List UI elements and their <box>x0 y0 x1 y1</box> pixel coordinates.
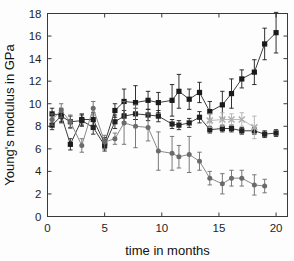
data-point-marker <box>176 154 181 159</box>
data-point-marker <box>187 152 192 157</box>
data-point-marker <box>262 132 267 137</box>
y-tick-label: 6 <box>35 143 41 155</box>
y-tick-label: 10 <box>29 98 42 110</box>
data-point-marker <box>156 114 161 119</box>
y-axis-title: Young's modulus in GPa <box>2 43 17 185</box>
y-tick-label: 18 <box>29 8 42 20</box>
chart-canvas: 024681012141618 05101520 time in months … <box>0 0 294 261</box>
y-tick-label: 4 <box>35 165 42 177</box>
data-point-marker <box>176 123 181 128</box>
data-point-marker <box>68 142 73 147</box>
data-point-marker <box>229 91 234 96</box>
figure-container: 024681012141618 05101520 time in months … <box>0 0 294 261</box>
data-point-marker <box>273 130 278 135</box>
data-point-marker <box>220 181 225 186</box>
data-point-marker <box>252 70 257 75</box>
data-point-marker <box>59 108 64 113</box>
data-point-marker <box>197 90 202 95</box>
y-tick-label: 0 <box>35 211 41 223</box>
data-point-marker <box>239 76 244 81</box>
data-point-marker <box>122 120 127 125</box>
data-point-marker <box>170 151 175 156</box>
data-point-marker <box>156 149 161 154</box>
data-point-marker <box>145 98 150 103</box>
data-point-marker <box>197 159 202 164</box>
data-point-marker <box>262 184 267 189</box>
x-tick-label: 10 <box>155 222 168 234</box>
data-point-marker <box>197 115 202 120</box>
y-tick-label: 2 <box>35 188 41 200</box>
x-tick-label: 20 <box>270 222 283 234</box>
data-point-marker <box>207 176 212 181</box>
data-point-marker <box>239 176 244 181</box>
data-point-marker <box>220 102 225 107</box>
x-tick-label: 0 <box>44 222 50 234</box>
data-point-marker <box>50 117 55 122</box>
data-point-marker <box>112 119 117 124</box>
series-light-gray-crosses <box>207 113 258 139</box>
data-point-marker <box>156 100 161 105</box>
y-tick-label: 8 <box>35 120 41 132</box>
data-point-marker <box>176 89 181 94</box>
data-point-marker <box>239 128 244 133</box>
data-point-marker <box>91 125 96 130</box>
data-point-marker <box>273 30 278 35</box>
x-axis-title: time in months <box>125 243 210 258</box>
error-bars <box>208 113 257 139</box>
y-tick-label: 16 <box>29 30 42 42</box>
data-point-marker <box>187 120 192 125</box>
data-point-marker <box>133 124 138 129</box>
data-point-marker <box>79 118 84 123</box>
x-tick-label: 5 <box>101 222 107 234</box>
data-point-marker <box>187 97 192 102</box>
data-point-marker <box>79 143 84 148</box>
y-tick-label: 12 <box>29 75 42 87</box>
data-point-marker <box>229 176 234 181</box>
data-point-marker <box>146 125 151 130</box>
data-point-marker <box>112 108 117 113</box>
data-point-marker <box>102 140 107 145</box>
data-point-marker <box>112 136 117 141</box>
y-tick-label: 14 <box>29 53 42 65</box>
data-series-layer <box>49 12 278 195</box>
data-point-marker <box>169 121 174 126</box>
data-point-marker <box>91 106 96 111</box>
data-point-marker <box>262 41 267 46</box>
data-point-marker <box>169 98 174 103</box>
x-tick-label: 15 <box>213 222 226 234</box>
data-point-marker <box>229 126 234 131</box>
data-point-marker <box>252 182 257 187</box>
data-point-marker <box>68 119 73 124</box>
